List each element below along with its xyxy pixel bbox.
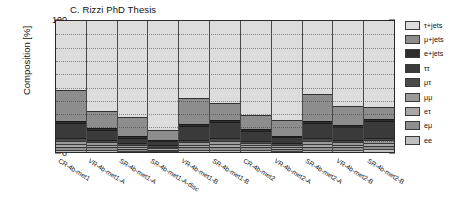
legend-label: μτ (424, 78, 431, 87)
legend-label: ee (424, 136, 432, 145)
bar-segment-μ+jets (56, 90, 86, 121)
legend-item[interactable]: e+jets (405, 47, 463, 61)
bar-segment-μ+jets (179, 98, 209, 124)
bar-segment-ee (210, 150, 240, 152)
x-tick-label: CR-4b-met1 (57, 157, 91, 182)
legend-label: μ+jets (424, 35, 444, 44)
legend-swatch-icon (405, 64, 420, 73)
legend-item[interactable]: μμ (405, 90, 463, 104)
bar-segment-μ+jets (364, 107, 394, 119)
bar-segment-μ+jets (303, 94, 333, 121)
legend-item[interactable]: eμ (405, 119, 463, 133)
legend-item[interactable]: μτ (405, 76, 463, 90)
bar-segment-μ+jets (148, 130, 178, 140)
bar-segment-τ+jets (303, 21, 333, 94)
bar-sr-4b-met1-a-disc[interactable] (148, 21, 179, 152)
bar-segment-ττ (210, 122, 240, 138)
legend-swatch-icon (405, 107, 420, 116)
bar-segment-τ+jets (179, 21, 209, 98)
plot-area (55, 20, 395, 153)
legend-label: eτ (424, 107, 431, 116)
bar-vr-4b-met2-b[interactable] (333, 21, 364, 152)
bar-segment-ττ (56, 123, 86, 138)
bar-cr-4b-met2[interactable] (241, 21, 272, 152)
legend-swatch-icon (405, 136, 420, 145)
bar-segment-ee (118, 151, 148, 152)
legend: τ+jetsμ+jetse+jetsττμτμμeτeμee (405, 18, 463, 148)
bar-vr-4b-met2-a[interactable] (272, 21, 303, 152)
bar-segment-ee (272, 151, 302, 152)
bar-segment-τ+jets (210, 21, 240, 103)
legend-label: e+jets (424, 49, 443, 58)
bar-segment-ee (333, 150, 363, 152)
bar-segment-τ+jets (148, 21, 178, 130)
legend-swatch-icon (405, 121, 420, 130)
bar-segment-ττ (87, 130, 117, 140)
bar-segment-ττ (364, 121, 394, 138)
legend-swatch-icon (405, 78, 420, 87)
bar-sr-4b-met1-a[interactable] (118, 21, 149, 152)
bar-sr-4b-met2-a[interactable] (303, 21, 334, 152)
legend-item[interactable]: ee (405, 133, 463, 147)
legend-label: τ+jets (424, 21, 442, 30)
legend-swatch-icon (405, 49, 420, 58)
legend-label: eμ (424, 121, 432, 130)
bar-vr-4b-met1-b[interactable] (179, 21, 210, 152)
legend-swatch-icon (405, 93, 420, 102)
bar-cr-4b-met1[interactable] (56, 21, 87, 152)
bar-segment-τ+jets (364, 21, 394, 107)
legend-swatch-icon (405, 35, 420, 44)
bar-segment-ee (303, 150, 333, 152)
bar-segment-ee (364, 149, 394, 152)
bar-segment-μ+jets (87, 111, 117, 127)
legend-label: μμ (424, 93, 432, 102)
bar-segment-μ+jets (118, 117, 148, 137)
chart-title: C. Rizzi PhD Thesis (70, 4, 320, 15)
bar-segment-μ+jets (210, 103, 240, 120)
bar-segment-τ+jets (118, 21, 148, 117)
bar-segment-ee (148, 151, 178, 152)
bar-sr-4b-met1-b[interactable] (210, 21, 241, 152)
legend-item[interactable]: μ+jets (405, 32, 463, 46)
bar-segment-ee (56, 150, 86, 152)
bar-segment-ττ (241, 131, 271, 141)
bar-segment-τ+jets (241, 21, 271, 115)
bar-segment-μ+jets (272, 120, 302, 136)
bar-segment-ee (179, 150, 209, 152)
bar-segment-τ+jets (272, 21, 302, 120)
bar-segment-ee (87, 150, 117, 152)
bar-segment-μ+jets (241, 115, 271, 129)
legend-item[interactable]: τ+jets (405, 18, 463, 32)
bar-sr-4b-met2-b[interactable] (364, 21, 394, 152)
bar-segment-τ+jets (87, 21, 117, 111)
bar-segment-ττ (333, 127, 363, 139)
chart-figure: C. Rizzi PhD Thesis Composition [%] 0102… (0, 0, 465, 203)
bar-group (56, 21, 394, 152)
bar-segment-ττ (179, 126, 209, 140)
legend-item[interactable]: ττ (405, 61, 463, 75)
bar-vr-4b-met1-a[interactable] (87, 21, 118, 152)
legend-item[interactable]: eτ (405, 104, 463, 118)
legend-label: ττ (424, 64, 430, 73)
legend-swatch-icon (405, 21, 420, 30)
bar-segment-τ+jets (333, 21, 363, 106)
bar-segment-τ+jets (56, 21, 86, 90)
bar-segment-ee (241, 150, 271, 152)
bar-segment-μ+jets (333, 106, 363, 125)
bar-segment-ττ (303, 123, 333, 139)
